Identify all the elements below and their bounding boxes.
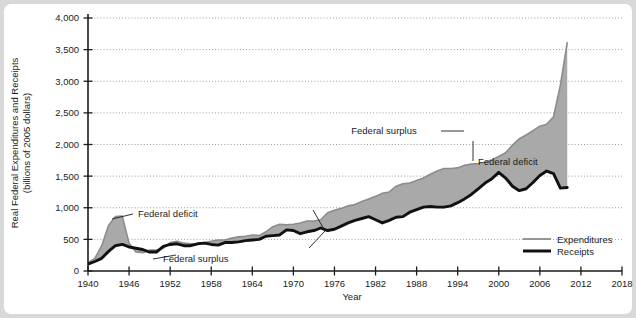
x-tick-label: 2006 bbox=[529, 278, 550, 289]
x-axis-title: Year bbox=[342, 291, 361, 302]
x-tick-label: 1958 bbox=[201, 278, 222, 289]
y-axis-tick-labels: 05001,0001,5002,0002,5003,0003,5004,000 bbox=[55, 12, 79, 276]
annotation-federal-surplus-2000: Federal surplus bbox=[351, 125, 417, 136]
y-tick-label: 3,000 bbox=[55, 76, 79, 87]
x-tick-label: 1994 bbox=[447, 278, 468, 289]
y-axis-title-line2: (billions of 2005 dollars) bbox=[21, 93, 32, 193]
x-tick-label: 2018 bbox=[611, 278, 632, 289]
x-tick-label: 1970 bbox=[283, 278, 304, 289]
y-tick-label: 0 bbox=[74, 265, 79, 276]
x-tick-label: 1988 bbox=[406, 278, 427, 289]
x-tick-label: 1946 bbox=[119, 278, 140, 289]
annotation-federal-deficit-1940s: Federal deficit bbox=[138, 208, 198, 219]
chart-legend: Expenditures Receipts bbox=[523, 234, 613, 257]
y-axis-title-line1: Real Federal Expenditures and Receipts bbox=[9, 57, 20, 228]
x-tick-label: 1976 bbox=[324, 278, 345, 289]
x-tick-label: 1952 bbox=[160, 278, 181, 289]
legend-label-receipts: Receipts bbox=[557, 246, 594, 257]
x-tick-label: 2012 bbox=[570, 278, 591, 289]
y-tick-label: 4,000 bbox=[55, 12, 79, 23]
y-tick-label: 1,500 bbox=[55, 171, 79, 182]
y-tick-label: 3,500 bbox=[55, 44, 79, 55]
x-axis-tick-labels: 1940194619521958196419701976198219881994… bbox=[77, 278, 632, 289]
chart-page: 05001,0001,5002,0002,5003,0003,5004,000 … bbox=[0, 0, 636, 318]
y-tick-label: 2,500 bbox=[55, 107, 79, 118]
y-tick-label: 2,000 bbox=[55, 139, 79, 150]
y-tick-label: 500 bbox=[63, 234, 79, 245]
annotation-federal-surplus-1950s: Federal surplus bbox=[163, 253, 229, 264]
federal-expenditures-receipts-chart: 05001,0001,5002,0002,5003,0003,5004,000 … bbox=[0, 0, 636, 318]
x-tick-label: 1964 bbox=[242, 278, 263, 289]
annotation-federal-deficit-2000s: Federal deficit bbox=[478, 156, 538, 167]
x-tick-label: 2000 bbox=[488, 278, 509, 289]
legend-label-expenditures: Expenditures bbox=[557, 234, 613, 245]
x-tick-label: 1940 bbox=[77, 278, 98, 289]
y-tick-label: 1,000 bbox=[55, 202, 79, 213]
x-tick-label: 1982 bbox=[365, 278, 386, 289]
